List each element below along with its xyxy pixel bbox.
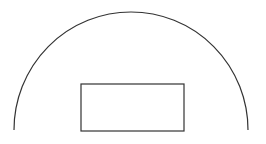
semicircle-arc <box>14 12 248 130</box>
diagram-canvas <box>0 0 266 144</box>
inner-rectangle <box>81 84 184 131</box>
